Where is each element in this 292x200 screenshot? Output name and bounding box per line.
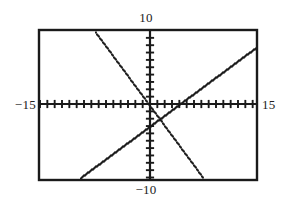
series-ascending-line xyxy=(80,48,257,180)
calculator-screen: 10 −10 −15 15 xyxy=(0,0,292,200)
axis-ticks xyxy=(40,38,253,178)
plot-canvas xyxy=(0,0,292,200)
